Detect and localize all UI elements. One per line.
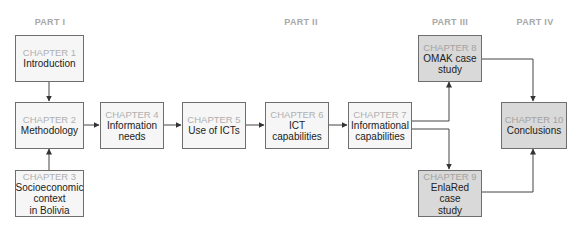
chapter-box-7: CHAPTER 7 Informational capabilities (348, 102, 412, 149)
chapter-number: CHAPTER 3 (23, 171, 76, 182)
chapter-title-line-2: study (438, 64, 462, 76)
chapter-number: CHAPTER 2 (23, 114, 76, 125)
chapter-title-line-1: Informational (351, 120, 409, 132)
chapter-number: CHAPTER 4 (105, 109, 158, 120)
chapter-title-line-2: context (33, 193, 65, 205)
arrow-ch8-ch10 (481, 59, 533, 101)
chapter-number: CHAPTER 5 (187, 114, 240, 125)
chapter-box-10: CHAPTER 10 Conclusions (501, 102, 567, 149)
chapter-box-5: CHAPTER 5 Use of ICTs (182, 102, 246, 149)
chapter-box-3: CHAPTER 3 Socioeconomic context in Boliv… (15, 170, 84, 217)
chapter-title-line-2: study (438, 205, 462, 217)
chapter-box-9: CHAPTER 9 EnlaRed case study (418, 170, 482, 217)
chapter-number: CHAPTER 6 (270, 109, 323, 120)
chapter-box-2: CHAPTER 2 Methodology (15, 102, 84, 149)
chapter-title-line-2: capabilities (355, 131, 404, 143)
arrow-ch9-ch10 (481, 149, 533, 192)
chapter-number: CHAPTER 7 (353, 109, 406, 120)
arrow-ch7-ch8 (411, 82, 449, 121)
chapter-box-8: CHAPTER 8 OMAK case study (418, 35, 482, 82)
chapter-number: CHAPTER 1 (23, 47, 76, 58)
chapter-title-line-2: capabilities (272, 131, 321, 143)
chapter-number: CHAPTER 8 (423, 42, 476, 53)
chapter-title-line-2: needs (118, 131, 145, 143)
chapter-number: CHAPTER 9 (423, 171, 476, 182)
chapter-title-line-1: Information (107, 120, 157, 132)
chapter-number: CHAPTER 10 (505, 114, 564, 125)
arrow-ch7-ch9 (411, 129, 449, 169)
chapter-title-line-1: OMAK case (423, 53, 476, 65)
chapter-title-line-3: in Bolivia (29, 205, 69, 217)
chapter-box-4: CHAPTER 4 Information needs (100, 102, 164, 149)
chapter-box-1: CHAPTER 1 Introduction (15, 35, 84, 82)
chapter-title: Introduction (23, 58, 75, 70)
chapter-title-line-1: Socioeconomic (16, 182, 84, 194)
chapter-title-line-1: ICT (289, 120, 305, 132)
chapter-box-6: CHAPTER 6 ICT capabilities (265, 102, 329, 149)
chapter-title: Conclusions (507, 125, 561, 137)
chapter-title: Use of ICTs (188, 125, 240, 137)
chapter-title: Methodology (21, 125, 78, 137)
chapter-title-line-1: EnlaRed case (419, 182, 481, 205)
